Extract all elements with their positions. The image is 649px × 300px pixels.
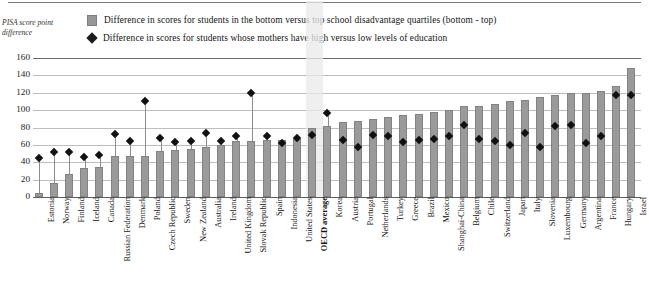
- diamond-point[interactable]: [247, 89, 255, 97]
- bar[interactable]: [50, 183, 58, 197]
- bar[interactable]: [247, 141, 255, 197]
- bar[interactable]: [187, 149, 195, 197]
- x-tick-label: Germany: [577, 197, 590, 297]
- bar[interactable]: [551, 95, 559, 198]
- diamond-point[interactable]: [232, 132, 240, 140]
- x-tick-label: Switzerland: [501, 197, 514, 297]
- bar[interactable]: [202, 147, 210, 197]
- bar[interactable]: [612, 86, 620, 197]
- bar[interactable]: [339, 122, 347, 197]
- diamond-point[interactable]: [34, 154, 42, 162]
- diamond-point[interactable]: [80, 153, 88, 161]
- y-tick-100: 100: [4, 104, 30, 114]
- bar[interactable]: [430, 112, 438, 197]
- x-tick-label: France: [607, 197, 620, 297]
- top-divider: [8, 2, 641, 3]
- data-columns: [33, 58, 641, 197]
- diamond-point[interactable]: [156, 134, 164, 142]
- bar[interactable]: [384, 117, 392, 197]
- diamond-point[interactable]: [186, 136, 194, 144]
- bar[interactable]: [475, 106, 483, 197]
- legend-item-bars: Difference in scores for students in the…: [87, 12, 632, 28]
- diamond-marker-icon: [86, 32, 97, 43]
- bar[interactable]: [354, 121, 362, 197]
- x-tick-label: United States: [303, 197, 316, 297]
- diamond-point[interactable]: [171, 138, 179, 146]
- y-tick-60: 60: [4, 139, 30, 149]
- bar[interactable]: [156, 151, 164, 197]
- x-tick-label: Belgium: [470, 197, 483, 297]
- x-tick-label: Korea: [333, 197, 346, 297]
- bar[interactable]: [627, 68, 635, 197]
- diamond-point[interactable]: [49, 148, 57, 156]
- diamond-point[interactable]: [125, 137, 133, 145]
- y-tick-20: 20: [4, 174, 30, 184]
- diamond-point[interactable]: [110, 130, 118, 138]
- x-tick-label: Israel: [637, 197, 649, 297]
- x-tick-label: Greece: [409, 197, 422, 297]
- y-tick-80: 80: [4, 122, 30, 132]
- diamond-stem: [39, 158, 40, 197]
- bar[interactable]: [597, 91, 605, 197]
- bar[interactable]: [445, 110, 453, 197]
- x-tick-label: Argentina: [592, 197, 605, 297]
- bar[interactable]: [491, 104, 499, 197]
- x-tick-label: Russian Federation: [121, 197, 134, 297]
- x-tick-label: Austria: [349, 197, 362, 297]
- x-tick-label: Slovenia: [546, 197, 559, 297]
- x-tick-label: Mexico: [440, 197, 453, 297]
- x-tick-label: Poland: [151, 197, 164, 297]
- x-tick-label: OECD average: [318, 197, 331, 297]
- bar[interactable]: [111, 156, 119, 197]
- x-tick-label: Indonesia: [288, 197, 301, 297]
- x-tick-label: Luxembourg: [561, 197, 574, 297]
- bar[interactable]: [126, 156, 134, 197]
- diamond-point[interactable]: [141, 97, 149, 105]
- y-tick-140: 140: [4, 69, 30, 79]
- diamond-point[interactable]: [217, 136, 225, 144]
- x-tick-label: Chile: [485, 197, 498, 297]
- bar[interactable]: [80, 168, 88, 197]
- bar[interactable]: [171, 150, 179, 197]
- bar[interactable]: [323, 126, 331, 197]
- bar[interactable]: [65, 174, 73, 197]
- y-tick-40: 40: [4, 156, 30, 166]
- x-tick-label: Ireland: [227, 197, 240, 297]
- x-tick-label: Sweden: [181, 197, 194, 297]
- x-tick-label: Estonia: [45, 197, 58, 297]
- legend-label-bars: Difference in scores for students in the…: [104, 15, 497, 25]
- x-tick-label: Norway: [60, 197, 73, 297]
- bar[interactable]: [399, 115, 407, 197]
- diamond-point[interactable]: [201, 128, 209, 136]
- x-tick-label: Netherlands: [379, 197, 392, 297]
- bar[interactable]: [263, 140, 271, 197]
- bar[interactable]: [217, 145, 225, 197]
- bar[interactable]: [95, 167, 103, 197]
- bar[interactable]: [232, 141, 240, 197]
- bar[interactable]: [141, 156, 149, 197]
- x-tick-label: Denmark: [136, 197, 149, 297]
- x-tick-label: Hungary: [622, 197, 635, 297]
- bar[interactable]: [278, 140, 286, 197]
- bar[interactable]: [293, 139, 301, 197]
- x-axis-tick-labels: EstoniaNorwayFinlandIcelandCanadaRussian…: [33, 199, 641, 299]
- x-tick-label: Japan: [516, 197, 529, 297]
- bar[interactable]: [567, 93, 575, 197]
- diamond-point[interactable]: [95, 151, 103, 159]
- x-tick-label: Italy: [531, 197, 544, 297]
- bar[interactable]: [521, 100, 529, 197]
- x-tick-label: Portugal: [364, 197, 377, 297]
- y-axis-title: PISA score point difference: [2, 18, 74, 37]
- x-tick-label: Finland: [75, 197, 88, 297]
- bar[interactable]: [415, 114, 423, 197]
- x-tick-label: Turkey: [394, 197, 407, 297]
- x-tick-label: United Kingdom: [242, 197, 255, 297]
- x-tick-label: Iceland: [90, 197, 103, 297]
- x-tick-label: Brazil: [425, 197, 438, 297]
- diamond-point[interactable]: [65, 148, 73, 156]
- x-tick-label: Shanghai-China: [455, 197, 468, 297]
- bar[interactable]: [460, 106, 468, 197]
- diamond-point[interactable]: [323, 108, 331, 116]
- legend-item-diamonds: Difference in scores for students whose …: [87, 30, 632, 46]
- x-tick-label: Czech Republic: [166, 197, 179, 297]
